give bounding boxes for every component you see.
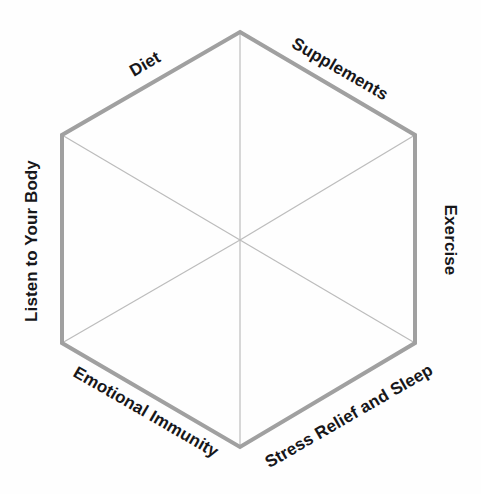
hexagon-graphic [0, 0, 481, 494]
hexagon-diagram: Diet Supplements Exercise Stress Relief … [0, 0, 481, 494]
spoke-to-lower-left [62, 240, 240, 343]
hexagon-label-exercise: Exercise [442, 205, 459, 276]
hexagon-label-listen-to-your-body: Listen to Your Body [23, 160, 40, 322]
spoke-to-lower-right [240, 240, 415, 343]
spoke-to-upper-right [240, 135, 415, 240]
spoke-to-upper-left [62, 135, 240, 240]
